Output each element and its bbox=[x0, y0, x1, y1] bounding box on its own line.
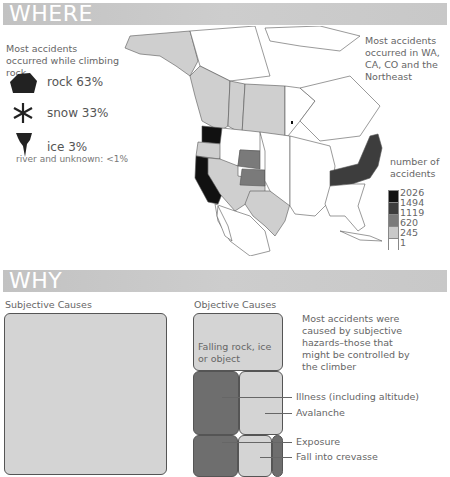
rock-label: rock 63% bbox=[47, 76, 103, 88]
crevasse-leader bbox=[260, 457, 292, 458]
where-header: WHERE bbox=[9, 1, 93, 26]
legend: 2026 1494 1119 620 245 1 bbox=[388, 190, 399, 250]
illness-block bbox=[193, 371, 239, 435]
subjective-title: Subjective Causes bbox=[5, 299, 92, 311]
falling-rock-block: Falling rock, ice or object bbox=[193, 313, 283, 371]
why-header: WHY bbox=[9, 268, 62, 293]
why-note: Most accidents were caused by subjective… bbox=[302, 313, 417, 373]
legend-swatch-1 bbox=[388, 190, 399, 202]
avalanche-block bbox=[239, 371, 283, 435]
falling-rock-label: Falling rock, ice or object bbox=[198, 341, 278, 365]
map-note: Most accidents occurred in WA, CA, CO an… bbox=[365, 35, 445, 83]
legend-title: number of accidents bbox=[390, 156, 450, 180]
rock-icon bbox=[8, 72, 38, 94]
legend-values: 2026 1494 1119 620 245 1 bbox=[400, 188, 424, 248]
exposure-leader bbox=[222, 442, 292, 443]
legend-swatch-5 bbox=[388, 238, 399, 250]
snowflake-icon bbox=[12, 102, 34, 124]
illness-label: Illness (including altitude) bbox=[296, 391, 419, 403]
legend-swatch-2 bbox=[388, 202, 399, 214]
exposure-label: Exposure bbox=[296, 436, 340, 448]
ice-label: ice 3% bbox=[47, 141, 87, 153]
objective-title: Objective Causes bbox=[194, 299, 276, 311]
subjective-block bbox=[4, 313, 167, 475]
snow-label: snow 33% bbox=[47, 107, 109, 119]
other-note: river and unknown: <1% bbox=[16, 153, 128, 165]
avalanche-label: Avalanche bbox=[296, 407, 345, 419]
legend-value: 1 bbox=[400, 238, 424, 248]
crevasse-label: Fall into crevasse bbox=[296, 451, 378, 463]
where-header-bar: WHERE bbox=[3, 3, 447, 25]
why-header-bar: WHY bbox=[3, 270, 447, 292]
legend-swatch-3 bbox=[388, 214, 399, 226]
legend-swatch-4 bbox=[388, 226, 399, 238]
avalanche-leader bbox=[265, 413, 292, 414]
illness-leader bbox=[222, 397, 292, 398]
